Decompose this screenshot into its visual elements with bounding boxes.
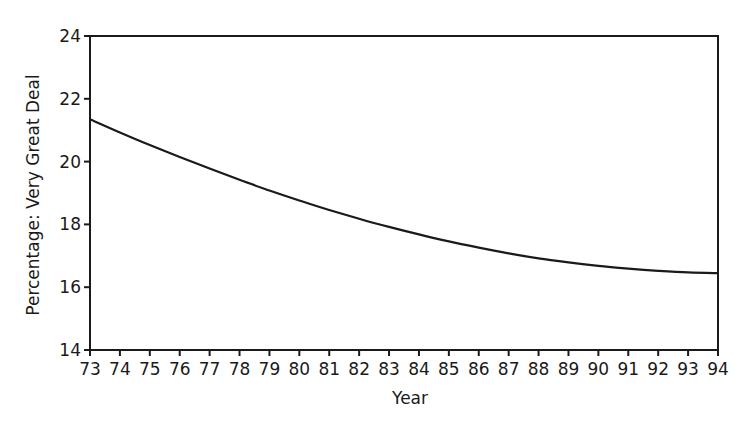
x-tick-label: 88 bbox=[528, 359, 550, 379]
y-tick-label: 16 bbox=[59, 277, 81, 297]
x-tick-label: 80 bbox=[289, 359, 311, 379]
y-tick-label: 24 bbox=[59, 26, 81, 46]
x-tick-label: 75 bbox=[139, 359, 161, 379]
x-tick-label: 82 bbox=[348, 359, 370, 379]
series-line-very-great-deal bbox=[90, 119, 718, 273]
x-tick-label: 94 bbox=[707, 359, 729, 379]
x-tick-label: 91 bbox=[617, 359, 639, 379]
x-tick-label: 93 bbox=[677, 359, 699, 379]
x-tick-label: 92 bbox=[647, 359, 669, 379]
y-axis-ticks: 141618202224 bbox=[59, 26, 90, 360]
y-axis-title: Percentage: Very Great Deal bbox=[23, 74, 43, 315]
x-tick-label: 85 bbox=[438, 359, 460, 379]
x-tick-label: 76 bbox=[169, 359, 191, 379]
line-chart: 141618202224 737475767778798081828384858… bbox=[0, 0, 751, 424]
y-tick-label: 14 bbox=[59, 340, 81, 360]
x-tick-label: 84 bbox=[408, 359, 430, 379]
x-tick-label: 81 bbox=[318, 359, 340, 379]
y-tick-label: 22 bbox=[59, 89, 81, 109]
x-tick-label: 90 bbox=[588, 359, 610, 379]
x-axis-title: Year bbox=[391, 388, 428, 408]
x-tick-label: 79 bbox=[259, 359, 281, 379]
x-tick-label: 89 bbox=[558, 359, 580, 379]
plot-frame bbox=[90, 36, 718, 350]
y-tick-label: 20 bbox=[59, 152, 81, 172]
y-tick-label: 18 bbox=[59, 214, 81, 234]
x-tick-label: 86 bbox=[468, 359, 490, 379]
x-tick-label: 87 bbox=[498, 359, 520, 379]
x-tick-label: 73 bbox=[79, 359, 101, 379]
x-tick-label: 74 bbox=[109, 359, 131, 379]
x-axis-ticks: 7374757677787980818283848586878889909192… bbox=[79, 350, 729, 379]
x-tick-label: 78 bbox=[229, 359, 251, 379]
x-tick-label: 77 bbox=[199, 359, 221, 379]
x-tick-label: 83 bbox=[378, 359, 400, 379]
